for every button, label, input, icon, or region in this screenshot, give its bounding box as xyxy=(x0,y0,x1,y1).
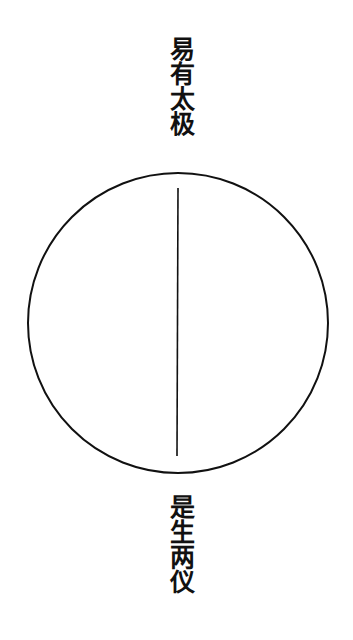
bottom-label: 是生两仪 xyxy=(160,494,194,594)
dividing-line xyxy=(177,188,178,456)
